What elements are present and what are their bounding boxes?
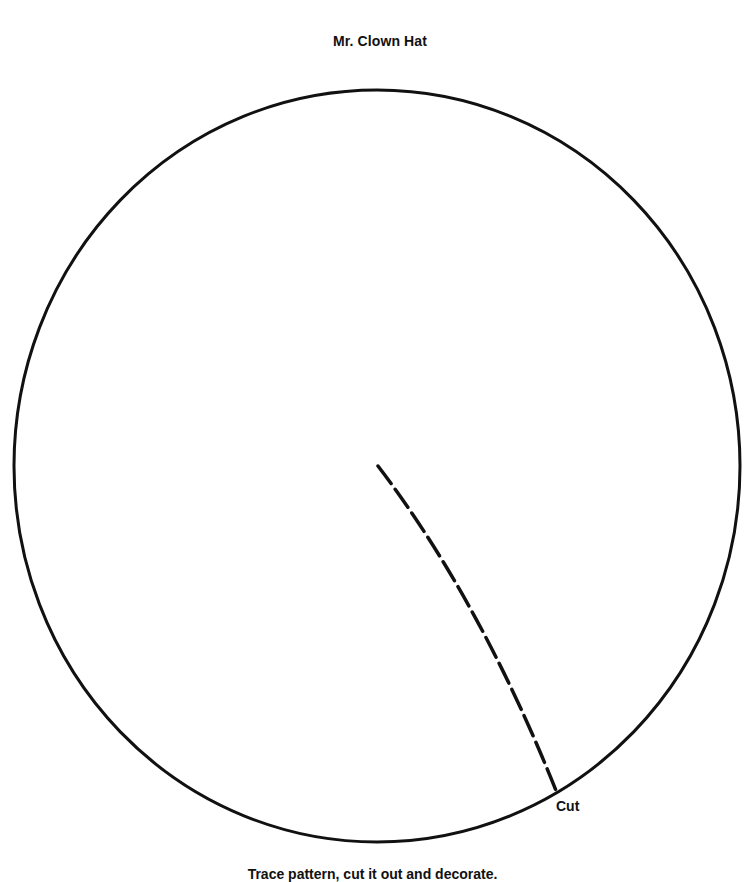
cut-label: Cut: [556, 798, 579, 814]
cut-line-dashed: [378, 466, 557, 793]
instructions-text: Trace pattern, cut it out and decorate.: [0, 866, 745, 882]
